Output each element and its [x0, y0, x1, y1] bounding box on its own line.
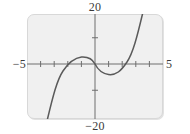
- x-axis-max-label: 5: [166, 58, 188, 70]
- y-axis-min-label: −20: [0, 120, 190, 132]
- x-axis-min-label: −5: [2, 58, 26, 70]
- y-axis-max-label: 20: [0, 1, 190, 13]
- graph-figure: 20 −20 −5 5: [0, 0, 190, 134]
- plot-canvas: [27, 14, 163, 119]
